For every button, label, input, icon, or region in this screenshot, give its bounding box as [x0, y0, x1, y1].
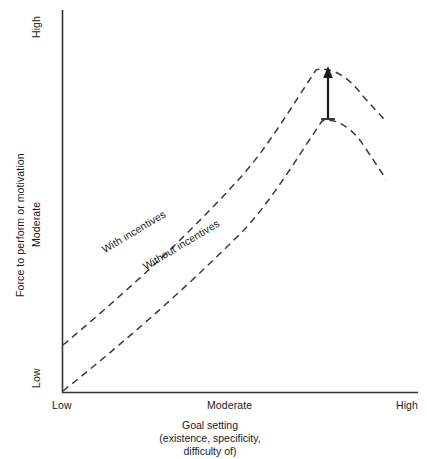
x-tick-low: Low: [52, 399, 72, 411]
x-tick-high: High: [396, 399, 418, 411]
x-axis-caption-line1: Goal setting: [130, 419, 290, 432]
x-axis-caption: Goal setting (existence, specificity, di…: [130, 419, 290, 458]
y-axis-title: Force to perform or motivation: [14, 153, 26, 297]
x-axis-caption-line2: (existence, specificity,: [130, 432, 290, 445]
curve-with-incentives: [63, 69, 384, 345]
x-axis-caption-line3: difficulty of): [130, 445, 290, 458]
y-tick-low: Low: [30, 368, 42, 388]
incentive-gap-arrow: [321, 66, 335, 119]
curve-without-incentives: [63, 120, 386, 391]
y-tick-high: High: [30, 16, 42, 38]
incentive-gap-arrow-head: [323, 66, 333, 78]
chart-figure: High Moderate Low Force to perform or mo…: [0, 0, 427, 459]
y-tick-moderate: Moderate: [30, 202, 42, 247]
x-tick-moderate: Moderate: [207, 399, 252, 411]
